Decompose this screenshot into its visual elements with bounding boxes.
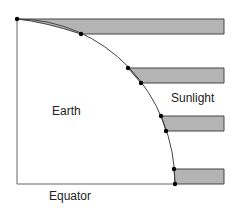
equator-label: Equator — [49, 189, 91, 203]
point — [173, 182, 177, 186]
earth-label: Earth — [52, 104, 81, 118]
surface-points — [15, 17, 177, 186]
point — [126, 66, 130, 70]
sunlight-band-2 — [128, 68, 224, 83]
point — [79, 32, 83, 36]
sunlight-label: Sunlight — [171, 91, 214, 105]
point — [159, 114, 163, 118]
sunlight-band-1 — [17, 19, 224, 34]
point — [172, 167, 176, 171]
point — [15, 17, 19, 21]
earth-surface-curve — [17, 19, 175, 184]
sunlight-band-3 — [161, 116, 224, 131]
point — [139, 81, 143, 85]
sunlight-band-4 — [174, 169, 224, 184]
point — [164, 129, 168, 133]
